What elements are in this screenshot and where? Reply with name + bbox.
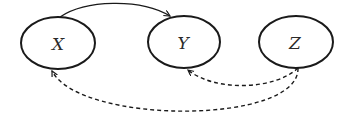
node-y-label: Y xyxy=(177,35,188,52)
causal-diagram: X Y Z xyxy=(0,0,357,117)
diagram-svg xyxy=(0,0,357,117)
node-x-label: X xyxy=(52,36,64,53)
edge-z-to-x xyxy=(52,68,298,111)
edge-z-to-y xyxy=(188,68,298,86)
edge-x-to-y xyxy=(60,3,170,17)
node-z-label: Z xyxy=(289,35,301,52)
